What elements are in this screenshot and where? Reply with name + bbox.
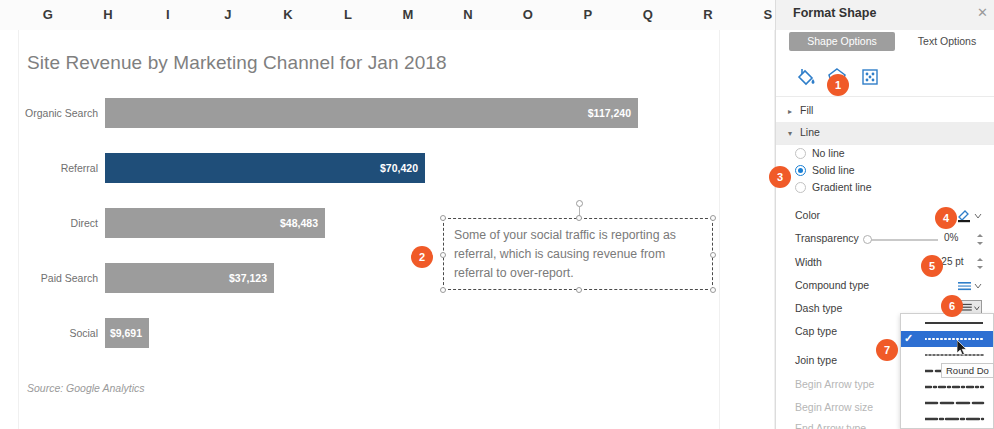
dash-preview-line bbox=[925, 316, 985, 330]
resize-handle-e[interactable] bbox=[710, 252, 716, 258]
mouse-cursor-icon bbox=[957, 340, 968, 356]
width-stepper[interactable] bbox=[976, 256, 984, 271]
property-label-begin-arrow-type: Begin Arrow type bbox=[795, 378, 874, 390]
chart-value-label: $37,123 bbox=[229, 272, 267, 284]
chart-bar[interactable]: $117,240 bbox=[105, 98, 638, 128]
chart-title: Site Revenue by Marketing Channel for Ja… bbox=[27, 52, 447, 74]
resize-handle-se[interactable] bbox=[710, 287, 716, 293]
property-label-transparency: Transparency bbox=[795, 232, 859, 244]
resize-handle-n[interactable] bbox=[576, 215, 582, 221]
annotation-text: Some of your social traffic is reporting… bbox=[454, 226, 704, 283]
dash-preview-line bbox=[925, 332, 985, 346]
column-header-l[interactable]: L bbox=[318, 0, 378, 30]
chart-bar[interactable]: $37,123 bbox=[105, 263, 274, 293]
chart-bar-row: Organic Search$117,240 bbox=[18, 90, 718, 136]
column-header-p[interactable]: P bbox=[558, 0, 618, 30]
check-icon: ✓ bbox=[904, 332, 913, 345]
callout-badge-4: 4 bbox=[935, 207, 957, 229]
chart-category-label: Referral bbox=[18, 145, 98, 191]
property-label-color: Color bbox=[795, 209, 820, 221]
chart-category-label: Social bbox=[18, 310, 98, 356]
tab-shape-options[interactable]: Shape Options bbox=[789, 32, 895, 51]
close-icon[interactable]: ✕ bbox=[974, 5, 990, 21]
property-label-cap-type: Cap type bbox=[795, 325, 837, 337]
dash-option-dash-dot[interactable] bbox=[901, 379, 993, 395]
chart-bar[interactable]: $9,691 bbox=[105, 318, 149, 348]
column-header-m[interactable]: M bbox=[378, 0, 438, 30]
size-properties-icon[interactable] bbox=[857, 64, 883, 90]
compound-type-dropdown[interactable] bbox=[956, 278, 982, 293]
column-header-k[interactable]: K bbox=[258, 0, 318, 30]
chart-bar[interactable]: $48,483 bbox=[105, 208, 325, 238]
property-row-transparency[interactable]: Transparency 0% bbox=[776, 228, 994, 251]
resize-handle-nw[interactable] bbox=[440, 215, 446, 221]
fill-line-icon[interactable] bbox=[792, 64, 818, 90]
chart-category-label: Direct bbox=[18, 200, 98, 246]
property-row-color[interactable]: Color bbox=[776, 205, 994, 228]
transparency-value: 0% bbox=[944, 232, 958, 243]
column-header-r[interactable]: R bbox=[678, 0, 738, 30]
chart-bar[interactable]: $70,420 bbox=[105, 153, 425, 183]
column-header-h[interactable]: H bbox=[78, 0, 138, 30]
callout-badge-6: 6 bbox=[941, 295, 963, 317]
line-color-picker[interactable] bbox=[956, 208, 982, 223]
property-label-end-arrow-type: End Arrow type bbox=[795, 422, 866, 429]
dash-preview-line bbox=[925, 396, 985, 410]
property-label-width: Width bbox=[795, 256, 822, 268]
callout-badge-1: 1 bbox=[827, 74, 849, 96]
column-header-q[interactable]: Q bbox=[618, 0, 678, 30]
tab-text-options[interactable]: Text Options bbox=[909, 32, 985, 51]
property-row-compound-type[interactable]: Compound type bbox=[776, 275, 994, 298]
radio-gradient-line-label: Gradient line bbox=[812, 181, 872, 193]
radio-no-line-label: No line bbox=[812, 147, 845, 159]
property-label-compound-type: Compound type bbox=[795, 279, 869, 291]
dash-option-round-dot[interactable]: ✓ bbox=[901, 331, 993, 347]
panel-title: Format Shape bbox=[793, 6, 876, 20]
annotation-textbox[interactable]: Some of your social traffic is reporting… bbox=[443, 218, 713, 290]
resize-handle-w[interactable] bbox=[440, 252, 446, 258]
chart-category-label: Paid Search bbox=[18, 255, 98, 301]
section-fill[interactable]: ▸ Fill bbox=[776, 100, 994, 123]
section-line-label: Line bbox=[800, 126, 820, 138]
transparency-stepper[interactable] bbox=[976, 232, 984, 247]
dash-preview-line bbox=[925, 380, 985, 394]
resize-handle-ne[interactable] bbox=[710, 215, 716, 221]
chart-source-note: Source: Google Analytics bbox=[27, 382, 145, 394]
dash-option-solid[interactable] bbox=[901, 315, 993, 331]
slider-knob[interactable] bbox=[863, 235, 872, 244]
callout-badge-2: 2 bbox=[411, 246, 433, 268]
column-header-j[interactable]: J bbox=[198, 0, 258, 30]
section-fill-label: Fill bbox=[800, 104, 813, 116]
dash-type-tooltip: Round Do bbox=[941, 363, 994, 378]
rotation-handle[interactable] bbox=[576, 200, 583, 207]
chart-value-label: $70,420 bbox=[380, 162, 418, 174]
column-header-g[interactable]: G bbox=[18, 0, 78, 30]
app-root: GHIJKLMNOPQRS Site Revenue by Marketing … bbox=[0, 0, 994, 429]
chart-bar-row: Social$9,691 bbox=[18, 310, 718, 356]
property-label-dash-type: Dash type bbox=[795, 302, 842, 314]
column-header-o[interactable]: O bbox=[498, 0, 558, 30]
resize-handle-sw[interactable] bbox=[440, 287, 446, 293]
chart-category-label: Organic Search bbox=[18, 90, 98, 136]
radio-solid-line-label: Solid line bbox=[812, 164, 855, 176]
spreadsheet-area: GHIJKLMNOPQRS Site Revenue by Marketing … bbox=[0, 0, 775, 429]
dash-preview-line bbox=[925, 412, 985, 426]
chevron-right-icon: ▸ bbox=[788, 107, 792, 116]
column-header-i[interactable]: I bbox=[138, 0, 198, 30]
transparency-slider[interactable] bbox=[863, 235, 938, 245]
section-line[interactable]: ▾ Line bbox=[776, 122, 994, 145]
panel-icon-row bbox=[776, 62, 994, 97]
slider-track bbox=[871, 239, 938, 241]
dash-option-square-dot[interactable] bbox=[901, 347, 993, 363]
dash-preview-line bbox=[925, 348, 985, 362]
property-label-begin-arrow-size: Begin Arrow size bbox=[795, 401, 873, 413]
dash-option-long-dash-dot[interactable] bbox=[901, 411, 993, 427]
radio-dot-selected bbox=[795, 165, 806, 176]
resize-handle-s[interactable] bbox=[576, 287, 582, 293]
chevron-down-icon: ▾ bbox=[788, 129, 792, 138]
chart-bar-row: Referral$70,420 bbox=[18, 145, 718, 191]
chart-value-label: $9,691 bbox=[110, 327, 142, 339]
dash-option-long-dash[interactable] bbox=[901, 395, 993, 411]
column-header-n[interactable]: N bbox=[438, 0, 498, 30]
property-row-width[interactable]: Width 2.25 pt bbox=[776, 252, 994, 275]
